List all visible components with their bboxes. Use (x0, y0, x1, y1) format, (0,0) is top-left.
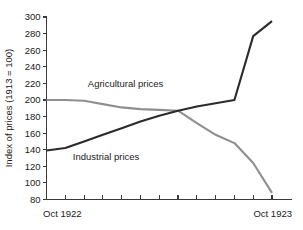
x-axis-end-label: Oct 1923 (253, 208, 292, 219)
y-tick-label: 120 (25, 161, 41, 172)
x-axis-start-label: Oct 1922 (43, 208, 82, 219)
y-tick-label: 200 (25, 94, 41, 105)
y-tick-label: 220 (25, 78, 41, 89)
y-tick-label: 280 (25, 28, 41, 39)
y-axis-title: Index of prices (1913 = 100) (3, 49, 14, 168)
y-tick-label: 140 (25, 144, 41, 155)
y-tick-label: 180 (25, 111, 41, 122)
line-chart: 80100120140160180200220240260280300 Inde… (0, 0, 303, 230)
y-tick-label: 160 (25, 128, 41, 139)
y-tick-label: 300 (25, 11, 41, 22)
y-tick-label: 260 (25, 45, 41, 56)
y-tick-label: 100 (25, 177, 41, 188)
y-tick-label: 80 (30, 194, 41, 205)
y-tick-label: 240 (25, 61, 41, 72)
chart-figure: 80100120140160180200220240260280300 Inde… (0, 0, 303, 230)
series-label-agricultural-prices: Agricultural prices (88, 78, 164, 89)
series-label-industrial-prices: Industrial prices (73, 151, 140, 162)
chart-background (0, 0, 303, 230)
